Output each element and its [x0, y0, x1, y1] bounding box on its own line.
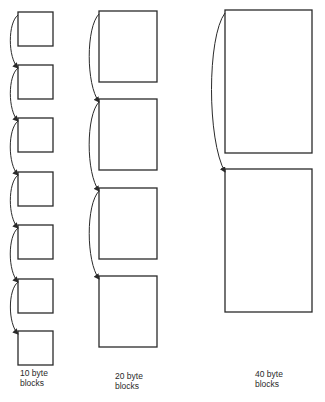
label-20-byte-blocks: 20 byte blocks: [115, 371, 143, 391]
link-arrow: [10, 15, 18, 68]
label-40-byte-blocks: 40 byte blocks: [255, 369, 283, 389]
label-line-1: 40 byte: [255, 369, 283, 379]
label-line-2: blocks: [20, 378, 48, 388]
memory-block: [18, 118, 53, 152]
memory-block: [18, 172, 53, 206]
linked-blocks-diagram: [0, 0, 325, 402]
memory-block: [99, 276, 157, 347]
memory-block: [18, 12, 53, 46]
link-arrow: [89, 191, 99, 279]
link-arrow: [89, 14, 99, 102]
link-arrow: [89, 102, 99, 191]
memory-block: [225, 10, 312, 153]
memory-block: [225, 169, 312, 312]
label-line-1: 20 byte: [115, 371, 143, 381]
link-arrow: [10, 175, 18, 228]
memory-block: [18, 225, 53, 259]
link-arrow: [10, 121, 18, 175]
label-line-2: blocks: [115, 381, 143, 391]
link-arrow: [10, 282, 18, 334]
memory-block: [99, 11, 157, 82]
memory-block: [99, 188, 157, 259]
link-arrow: [10, 68, 18, 121]
link-arrow: [212, 13, 226, 172]
label-10-byte-blocks: 10 byte blocks: [20, 368, 48, 388]
label-line-2: blocks: [255, 379, 283, 389]
label-line-1: 10 byte: [20, 368, 48, 378]
memory-block: [18, 331, 53, 365]
memory-block: [18, 279, 53, 313]
link-arrow: [10, 228, 18, 282]
memory-block: [18, 65, 53, 99]
memory-block: [99, 99, 157, 170]
